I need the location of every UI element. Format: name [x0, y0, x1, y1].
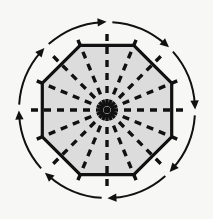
diagram-canvas	[0, 0, 213, 219]
octagon-circulation-diagram: Octagon with radial dashed spokes and cl…	[0, 0, 213, 219]
spoke-convergence-center	[103, 106, 110, 113]
